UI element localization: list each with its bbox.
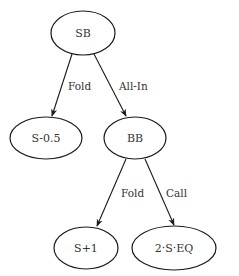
node-label: SB	[75, 27, 91, 40]
edge-label-fold: Fold	[121, 187, 144, 199]
node-sb: SB	[51, 11, 115, 55]
game-tree-diagram: Fold All-In Fold Call SB S-0.5 BB S+1 2·…	[0, 0, 239, 276]
node-label: 2·S·EQ	[155, 242, 194, 255]
edge-sb-all-in: All-In	[94, 54, 148, 116]
node-label: S+1	[74, 242, 98, 255]
node-label: S-0.5	[31, 132, 60, 145]
edge-sb-fold: Fold	[52, 54, 91, 116]
node-s+1: S+1	[54, 227, 118, 269]
edge-bb-call: Call	[145, 159, 188, 225]
edge-label-fold: Fold	[68, 80, 91, 92]
node-bb: BB	[104, 117, 166, 159]
node-s-0.5: S-0.5	[10, 117, 82, 159]
edge-label-call: Call	[166, 187, 188, 199]
edge-bb-fold: Fold	[97, 159, 144, 226]
node-2-s-eq: 2·S·EQ	[132, 226, 216, 270]
edge-label-all-in: All-In	[118, 80, 148, 92]
node-label: BB	[127, 132, 143, 145]
